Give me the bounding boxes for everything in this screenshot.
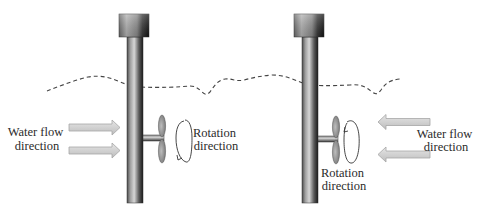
left-rotation-label-line2: direction <box>194 139 239 153</box>
right-rotation-label-line2: direction <box>322 179 367 193</box>
left-flow-label-line2: direction <box>15 139 60 153</box>
left-rotor <box>143 115 166 163</box>
right-rotation-label: Rotation direction <box>321 166 367 193</box>
right-flow-label: Water flow direction <box>417 127 476 154</box>
left-flow-arrow-bottom <box>69 143 120 158</box>
left-turbine-pole <box>127 37 143 203</box>
right-turbine: Water flow direction Rotation direction <box>294 14 475 203</box>
left-turbine: Water flow direction Rotation direction <box>8 14 239 203</box>
left-rotor-blade-bottom <box>158 139 165 163</box>
left-rotation-label: Rotation direction <box>193 126 239 153</box>
left-flow-arrow-top <box>69 120 120 135</box>
water-surface-line <box>47 75 400 94</box>
right-flow-arrow-bottom <box>378 147 430 162</box>
right-rotation-arrow <box>344 121 359 163</box>
left-flow-label: Water flow direction <box>8 125 67 153</box>
right-rotor <box>318 116 340 164</box>
right-turbine-pole <box>302 37 318 203</box>
diagram-canvas: Water flow direction Rotation direction <box>0 0 484 211</box>
left-rotation-arrow <box>176 120 192 162</box>
right-rotor-blade-top <box>332 116 339 138</box>
left-rotation-label-line1: Rotation <box>193 126 237 140</box>
turbine-diagram: Water flow direction Rotation direction <box>0 0 484 211</box>
right-rotor-blade-bottom <box>332 140 339 164</box>
right-flow-label-line1: Water flow <box>417 127 473 141</box>
left-flow-label-line1: Water flow <box>8 125 64 139</box>
right-rotation-arrowhead-icon <box>344 127 348 132</box>
right-rotation-label-line1: Rotation <box>321 166 365 180</box>
right-flow-label-line2: direction <box>424 140 469 154</box>
left-rotor-blade-top <box>158 115 165 137</box>
